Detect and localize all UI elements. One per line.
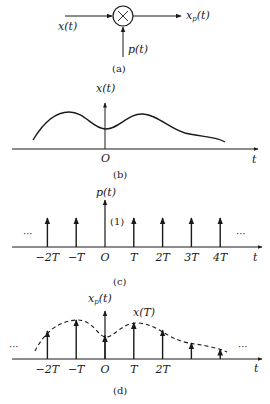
output-label-arg: (t) bbox=[197, 9, 210, 22]
tick-label: 4T bbox=[212, 251, 229, 264]
panel-d: xp(t) x(T) ··· ··· −2T−TOT2T t (d) bbox=[9, 292, 262, 396]
modulator-label: p(t) bbox=[128, 43, 148, 56]
tick-label: O bbox=[100, 363, 109, 376]
tick-label: −T bbox=[68, 251, 86, 264]
sample-impulses bbox=[47, 320, 220, 359]
tick-labels-c: −2T−TOT2T3T4T bbox=[36, 251, 229, 264]
tick-label: −2T bbox=[36, 251, 61, 264]
tick-label: −2T bbox=[36, 363, 61, 376]
y-label-b: x(t) bbox=[96, 82, 115, 95]
ellipsis-left-c: ··· bbox=[23, 228, 33, 239]
tick-label: 3T bbox=[184, 251, 200, 264]
multiply-circle-icon bbox=[118, 11, 128, 21]
ellipsis-right-d: ··· bbox=[238, 341, 248, 352]
sampling-diagram: x(t) xp(t) p(t) (a) x(t) O t (b) p(t) (1… bbox=[0, 0, 270, 404]
panel-b: x(t) O t (b) bbox=[12, 82, 258, 180]
impulse-train bbox=[47, 218, 220, 247]
tick-label: 2T bbox=[154, 363, 171, 376]
caption-d: (d) bbox=[113, 385, 127, 396]
tick-label: T bbox=[130, 363, 139, 376]
caption-b: (b) bbox=[113, 169, 127, 180]
tick-label: T bbox=[130, 251, 139, 264]
signal-curve bbox=[33, 112, 225, 142]
impulse-weight-label: (1) bbox=[110, 216, 124, 227]
y-label-c: p(t) bbox=[96, 186, 116, 199]
ellipsis-left-d: ··· bbox=[9, 341, 19, 352]
output-label: xp(t) bbox=[186, 9, 210, 23]
ellipsis-right-c: ··· bbox=[236, 228, 246, 239]
panel-a: x(t) xp(t) p(t) (a) bbox=[58, 6, 210, 74]
panel-c: p(t) (1) ··· ··· −2T−TOT2T3T4T t (c) bbox=[12, 186, 262, 287]
sample-label: x(T) bbox=[133, 306, 155, 319]
x-label-d: t bbox=[254, 362, 259, 375]
y-label-d-arg: (t) bbox=[99, 292, 112, 305]
caption-c: (c) bbox=[113, 276, 127, 287]
tick-labels-d: −2T−TOT2T bbox=[36, 363, 172, 376]
tick-label: 2T bbox=[154, 251, 171, 264]
x-label-c: t bbox=[253, 251, 258, 264]
x-label-b: t bbox=[252, 153, 257, 166]
caption-a: (a) bbox=[112, 63, 126, 74]
input-label: x(t) bbox=[58, 20, 77, 33]
tick-label: −T bbox=[68, 363, 86, 376]
origin-label-b: O bbox=[101, 152, 110, 165]
tick-label: O bbox=[100, 251, 109, 264]
envelope-dashed-curve bbox=[35, 320, 227, 352]
y-label-d: xp(t) bbox=[88, 292, 112, 306]
